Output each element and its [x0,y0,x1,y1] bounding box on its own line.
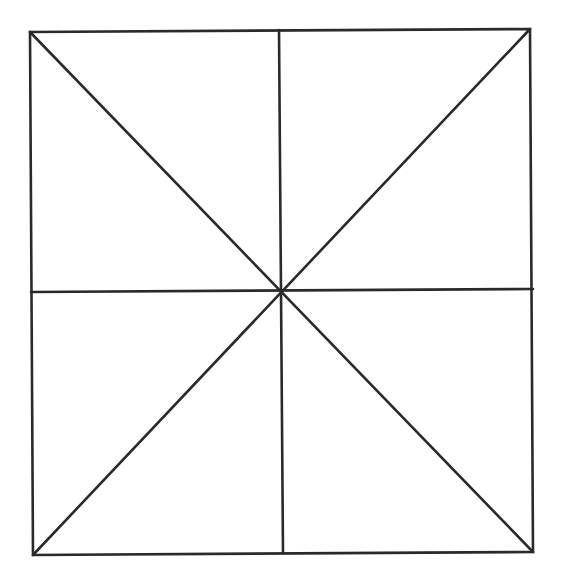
square-divided-diagram [0,0,565,585]
